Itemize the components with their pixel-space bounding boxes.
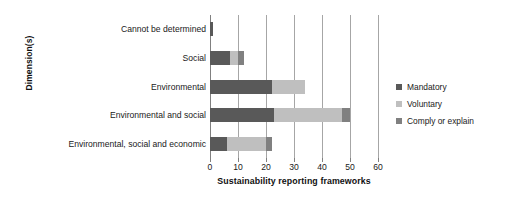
bar-segment-mandatory <box>210 22 213 36</box>
bar-row <box>210 51 244 65</box>
legend-item[interactable]: Mandatory <box>396 80 511 94</box>
bar-row <box>210 108 350 122</box>
legend-swatch-icon <box>396 118 402 124</box>
plot-area <box>210 15 378 158</box>
bar-segment-mandatory <box>210 137 227 151</box>
x-axis-tick-labels: 0102030405060 <box>150 162 440 174</box>
legend-label: Voluntary <box>407 99 442 109</box>
bar-row <box>210 80 305 94</box>
x-tick-label: 40 <box>310 162 334 172</box>
gridline <box>350 15 351 158</box>
category-label: Cannot be determined <box>10 24 206 34</box>
legend-label: Comply or explain <box>407 116 474 126</box>
category-label: Environmental and social <box>10 110 206 120</box>
bar-segment-voluntary <box>272 80 306 94</box>
category-label: Environmental <box>10 82 206 92</box>
y-axis-category-labels: Cannot be determinedSocialEnvironmentalE… <box>8 15 206 158</box>
x-tick-label: 0 <box>198 162 222 172</box>
category-label: Social <box>10 53 206 63</box>
x-tick-label: 30 <box>282 162 306 172</box>
x-tick-label: 60 <box>366 162 390 172</box>
bar-segment-voluntary <box>274 108 341 122</box>
gridline <box>322 15 323 158</box>
x-tick-label: 20 <box>254 162 278 172</box>
x-tick-label: 50 <box>338 162 362 172</box>
legend-swatch-icon <box>396 84 402 90</box>
x-axis-title: Sustainability reporting frameworks <box>176 176 412 186</box>
gridline <box>378 15 379 158</box>
legend-swatch-icon <box>396 101 402 107</box>
legend-item[interactable]: Voluntary <box>396 97 511 111</box>
bar-segment-comply-or-explain <box>342 108 350 122</box>
bar-segment-voluntary <box>230 51 238 65</box>
x-tick-label: 10 <box>226 162 250 172</box>
bar-segment-mandatory <box>210 51 230 65</box>
chart-legend: MandatoryVoluntaryComply or explain <box>396 80 511 131</box>
category-label: Environmental, social and economic <box>10 139 206 149</box>
bar-segment-comply-or-explain <box>238 51 244 65</box>
bar-segment-mandatory <box>210 80 272 94</box>
bar-segment-comply-or-explain <box>266 137 272 151</box>
legend-label: Mandatory <box>407 82 447 92</box>
stacked-bar-chart: Dimension(s) Cannot be determinedSocialE… <box>0 0 515 200</box>
legend-item[interactable]: Comply or explain <box>396 114 511 128</box>
bar-segment-voluntary <box>227 137 266 151</box>
bar-segment-mandatory <box>210 108 274 122</box>
bar-row <box>210 137 272 151</box>
bar-row <box>210 22 213 36</box>
